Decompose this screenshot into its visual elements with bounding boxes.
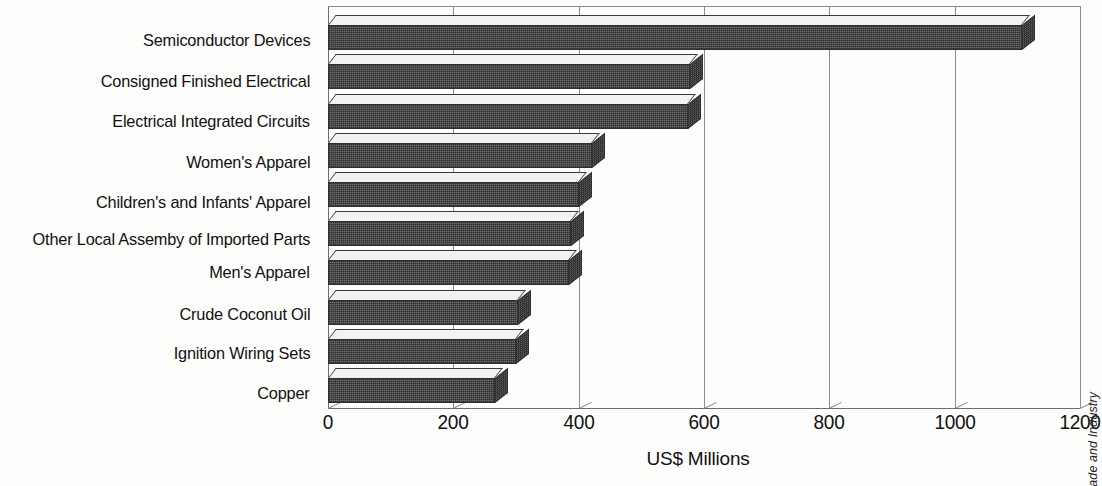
bar-front-face bbox=[328, 339, 516, 364]
bar bbox=[328, 300, 518, 325]
bar-front-face bbox=[328, 221, 571, 246]
plot-top-line bbox=[328, 6, 1080, 7]
gridline bbox=[829, 6, 830, 408]
bar bbox=[328, 378, 495, 403]
bar bbox=[328, 182, 579, 207]
x-tick-label: 600 bbox=[689, 412, 720, 432]
bar bbox=[328, 339, 516, 364]
bar bbox=[328, 104, 688, 129]
category-label: Ignition Wiring Sets bbox=[173, 345, 310, 362]
category-label: Copper bbox=[258, 385, 310, 402]
bar-chart: Semiconductor Devices Consigned Finished… bbox=[0, 0, 1102, 486]
category-label: Other Local Assemby of Imported Parts bbox=[32, 231, 310, 248]
bar-front-face bbox=[328, 143, 592, 168]
category-label: Consigned Finished Electrical bbox=[101, 73, 310, 90]
x-axis-tick-labels: 020040060080010001200 bbox=[318, 412, 1102, 442]
bar bbox=[328, 260, 569, 285]
bar-top-face bbox=[328, 290, 526, 300]
category-label: Electrical Integrated Circuits bbox=[113, 113, 310, 130]
category-label: Women's Apparel bbox=[186, 154, 310, 171]
x-tick-label: 200 bbox=[438, 412, 469, 432]
bar-front-face bbox=[328, 300, 518, 325]
bar-top-face bbox=[328, 329, 524, 339]
bar bbox=[328, 143, 592, 168]
gridline bbox=[955, 6, 956, 408]
bar-top-face bbox=[328, 172, 586, 182]
bar-top-face bbox=[328, 368, 503, 378]
x-tick-label: 1000 bbox=[934, 412, 975, 432]
x-tick-label: 800 bbox=[814, 412, 845, 432]
bar bbox=[328, 25, 1022, 50]
bar-front-face bbox=[328, 182, 579, 207]
category-label: Crude Coconut Oil bbox=[179, 306, 310, 323]
bar-top-face bbox=[328, 94, 696, 104]
category-label: Men's Apparel bbox=[210, 264, 310, 281]
bar bbox=[328, 64, 690, 89]
bar-front-face bbox=[328, 25, 1022, 50]
bar-top-face bbox=[328, 15, 1030, 25]
bar bbox=[328, 221, 571, 246]
bar-front-face bbox=[328, 64, 690, 89]
bar-front-face bbox=[328, 104, 688, 129]
category-label: Semiconductor Devices bbox=[143, 32, 310, 49]
bar-front-face bbox=[328, 260, 569, 285]
gridline bbox=[704, 6, 705, 408]
x-axis-line bbox=[328, 408, 1080, 409]
plot-area bbox=[318, 0, 1102, 410]
bar-top-face bbox=[328, 250, 577, 260]
plot-right-frame bbox=[1080, 6, 1081, 408]
bar-top-face bbox=[328, 133, 600, 143]
bar-front-face bbox=[328, 378, 495, 403]
x-axis-title: US$ Millions bbox=[318, 448, 1078, 470]
x-tick-label: 400 bbox=[563, 412, 594, 432]
bar-top-face bbox=[328, 54, 698, 64]
category-label: Children's and Infants' Apparel bbox=[96, 194, 310, 211]
x-tick-label: 0 bbox=[323, 412, 333, 432]
bar-top-face bbox=[328, 211, 579, 221]
source-note: Source: Philippine Department of Trade a… bbox=[1086, 392, 1100, 486]
category-axis-labels: Semiconductor Devices Consigned Finished… bbox=[0, 0, 318, 404]
